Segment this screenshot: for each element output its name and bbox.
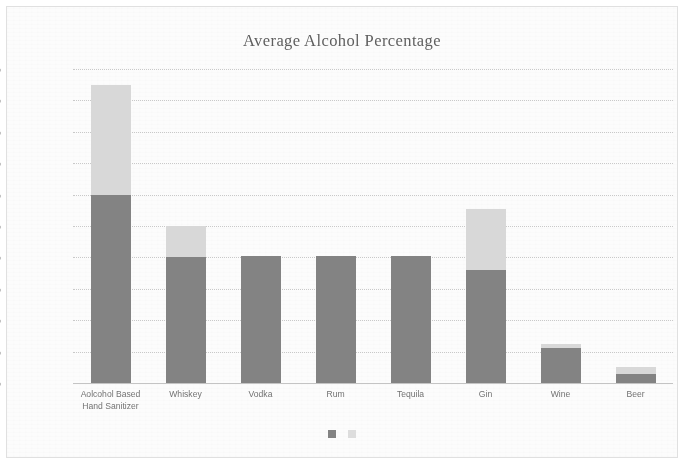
x-tick-label: Gin: [448, 388, 523, 412]
x-axis-tick-labels: Aolcohol BasedHand SanitizerWhiskeyVodka…: [73, 388, 673, 412]
bar-segment-series-1[interactable]: [91, 195, 131, 383]
bar-segment-series-2[interactable]: [91, 85, 131, 195]
chart-legend: [7, 430, 677, 438]
x-tick-label: Beer: [598, 388, 673, 412]
y-tick-label: 100.00%: [0, 64, 1, 74]
series-2-swatch[interactable]: [348, 430, 356, 438]
bar-segment-series-1[interactable]: [541, 348, 581, 383]
bar-stack[interactable]: [391, 256, 431, 383]
bar-segment-series-2[interactable]: [466, 209, 506, 270]
bar-segment-series-1[interactable]: [466, 270, 506, 383]
x-tick-label: Wine: [523, 388, 598, 412]
x-tick-label-line: Beer: [600, 388, 671, 400]
bar-slot: [73, 69, 148, 383]
series-1-swatch[interactable]: [328, 430, 336, 438]
x-tick-label-line: Aolcohol Based: [75, 388, 146, 400]
y-tick-label: 80.00%: [0, 127, 1, 137]
bar-slot: [523, 69, 598, 383]
y-tick-label: 40.00%: [0, 252, 1, 262]
x-tick-label-line: Wine: [525, 388, 596, 400]
y-tick-label: 70.00%: [0, 158, 1, 168]
bar-stack[interactable]: [616, 367, 656, 383]
bar-slot: [298, 69, 373, 383]
y-tick-label: 20.00%: [0, 315, 1, 325]
bar-segment-series-1[interactable]: [391, 256, 431, 383]
x-tick-label-line: Tequila: [375, 388, 446, 400]
x-tick-label-line: Hand Sanitizer: [75, 400, 146, 412]
x-tick-label-line: Vodka: [225, 388, 296, 400]
bar-segment-series-1[interactable]: [166, 257, 206, 383]
bar-stack[interactable]: [316, 256, 356, 383]
y-tick-label: 50.00%: [0, 221, 1, 231]
x-tick-label: Whiskey: [148, 388, 223, 412]
x-tick-label: Vodka: [223, 388, 298, 412]
y-tick-label: 10.00%: [0, 347, 1, 357]
chart-title: Average Alcohol Percentage: [7, 31, 677, 51]
chart-figure: Average Alcohol Percentage 0.00%10.00%20…: [6, 6, 678, 458]
bar-segment-series-1[interactable]: [241, 256, 281, 383]
y-tick-label: 90.00%: [0, 95, 1, 105]
bar-stack[interactable]: [241, 256, 281, 383]
bar-slot: [148, 69, 223, 383]
bar-slot: [598, 69, 673, 383]
bar-slot: [223, 69, 298, 383]
bar-stack[interactable]: [91, 85, 131, 383]
x-tick-label-line: Whiskey: [150, 388, 221, 400]
bar-series-group: [73, 69, 673, 383]
x-tick-label-line: Rum: [300, 388, 371, 400]
bar-stack[interactable]: [166, 226, 206, 383]
bar-stack[interactable]: [541, 344, 581, 383]
bar-segment-series-2[interactable]: [166, 226, 206, 257]
x-tick-label: Tequila: [373, 388, 448, 412]
y-tick-label: 60.00%: [0, 190, 1, 200]
bar-stack[interactable]: [466, 209, 506, 383]
plot-area: 0.00%10.00%20.00%30.00%40.00%50.00%60.00…: [73, 69, 673, 383]
x-tick-label: Aolcohol BasedHand Sanitizer: [73, 388, 148, 412]
x-tick-label: Rum: [298, 388, 373, 412]
bar-segment-series-1[interactable]: [616, 374, 656, 383]
bar-slot: [373, 69, 448, 383]
y-tick-label: 0.00%: [0, 378, 1, 388]
x-tick-label-line: Gin: [450, 388, 521, 400]
gridline-000: [73, 383, 673, 384]
bar-slot: [448, 69, 523, 383]
y-tick-label: 30.00%: [0, 284, 1, 294]
bar-segment-series-1[interactable]: [316, 256, 356, 383]
